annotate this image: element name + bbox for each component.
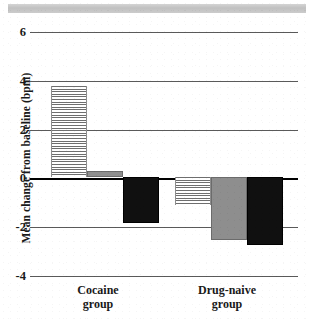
gridline-neg4: -4 — [30, 276, 298, 277]
y-tick-label-0: 0 — [20, 171, 26, 186]
bar-naive-hatched — [175, 177, 211, 205]
gridline-6: 6 — [30, 32, 298, 33]
y-tick-label-neg4: -4 — [16, 269, 26, 284]
bar-chart: Mean change from baseline (bpm) 6 4 2 0 … — [0, 0, 309, 322]
y-tick-label-neg2: -2 — [16, 220, 26, 235]
bar-naive-black — [247, 177, 283, 245]
bar-cocaine-hatched — [51, 86, 87, 177]
x-axis-label-cocaine: Cocaine group — [48, 283, 148, 311]
bar-cocaine-gray — [87, 171, 123, 177]
x-axis-label-naive-line1: Drug-naive — [198, 283, 256, 297]
x-axis-label-naive: Drug-naive group — [172, 283, 282, 311]
x-axis-label-naive-line2: group — [172, 297, 282, 311]
bar-cocaine-black — [123, 177, 159, 222]
y-tick-label-6: 6 — [20, 25, 26, 40]
plot-area: 6 4 2 0 -2 -4 — [30, 26, 298, 278]
bar-naive-gray — [211, 177, 247, 240]
x-axis-label-cocaine-line1: Cocaine — [77, 283, 118, 297]
y-tick-label-4: 4 — [20, 74, 26, 89]
x-axis-label-cocaine-line2: group — [48, 297, 148, 311]
y-tick-label-2: 2 — [20, 123, 26, 138]
gridline-4: 4 — [30, 81, 298, 82]
